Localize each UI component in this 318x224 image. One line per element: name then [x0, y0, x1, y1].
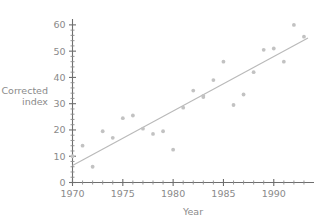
- x-tick-label: 1990: [262, 188, 286, 199]
- data-point: [111, 136, 115, 140]
- data-point: [101, 129, 105, 133]
- data-point: [131, 114, 135, 118]
- data-point: [262, 48, 266, 52]
- data-point: [292, 23, 296, 27]
- data-point: [282, 60, 286, 64]
- data-point: [302, 35, 306, 39]
- y-tick-label: 30: [53, 98, 65, 109]
- trend-line: [73, 38, 308, 165]
- x-tick-label: 1985: [211, 188, 235, 199]
- x-tick-labels: 19701975198019851990: [60, 188, 285, 199]
- x-axis: 19701975198019851990: [60, 179, 314, 199]
- data-point: [191, 89, 195, 93]
- y-tick-label: 50: [53, 46, 65, 57]
- data-point: [71, 154, 75, 158]
- data-point: [141, 127, 145, 131]
- x-tick-label: 1975: [111, 188, 135, 199]
- data-point: [252, 70, 256, 74]
- y-tick-label: 10: [53, 151, 65, 162]
- data-point: [222, 60, 226, 64]
- data-point: [272, 47, 276, 51]
- y-axis-title-line-2: index: [22, 96, 48, 107]
- data-point: [121, 116, 125, 120]
- y-tick-label: 40: [53, 72, 65, 83]
- y-axis: 0102030405060: [53, 19, 76, 188]
- plot-area: 0102030405060 19701975198019851990 Year …: [0, 0, 318, 224]
- y-tick-labels: 0102030405060: [53, 19, 65, 188]
- data-point: [232, 103, 236, 107]
- data-point: [161, 129, 165, 133]
- y-tick-label: 20: [53, 124, 65, 135]
- data-point: [181, 106, 185, 110]
- x-axis-title: Year: [182, 206, 203, 217]
- data-point: [201, 94, 205, 98]
- data-point: [151, 132, 155, 136]
- y-tick-label: 0: [59, 177, 65, 188]
- y-tick-label: 60: [53, 19, 65, 30]
- y-axis-title-line-1: Corrected: [1, 85, 48, 96]
- data-point: [171, 148, 175, 152]
- scatter-chart: 0102030405060 19701975198019851990 Year …: [0, 0, 318, 224]
- data-point: [211, 78, 215, 82]
- x-tick-label: 1970: [60, 188, 84, 199]
- data-point: [81, 144, 85, 148]
- data-point: [242, 93, 246, 97]
- data-point: [91, 165, 95, 169]
- x-tick-label: 1980: [161, 188, 185, 199]
